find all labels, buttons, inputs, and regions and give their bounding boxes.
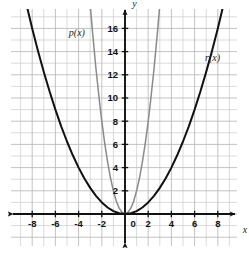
y-axis-tick-label: 12 — [107, 69, 118, 80]
x-axis-tick-label: 4 — [169, 218, 175, 229]
x-axis-tick-label: -8 — [28, 218, 36, 229]
y-axis-tick-label: 14 — [107, 46, 118, 57]
x-axis-tick-label: -6 — [51, 218, 59, 229]
x-axis-tick-label: -2 — [98, 218, 106, 229]
coordinate-graph: -8-6-4-202468246810121416p(x)r(x)yx — [0, 0, 249, 255]
x-axis-tick-label: -4 — [74, 218, 83, 229]
x-axis-tick-label: 6 — [192, 218, 197, 229]
x-axis-label: x — [242, 224, 248, 235]
y-axis-tick-label: 6 — [113, 139, 118, 150]
y-axis-tick-label: 16 — [107, 23, 118, 34]
y-axis-tick-label: 4 — [113, 162, 119, 173]
curve-label-r: r(x) — [205, 52, 221, 64]
y-axis-tick-label: 8 — [113, 116, 118, 127]
graph-svg: -8-6-4-202468246810121416p(x)r(x)yx — [0, 0, 249, 255]
y-axis-tick-label: 2 — [113, 185, 118, 196]
y-axis-label: y — [131, 0, 137, 9]
x-axis-tick-label: 8 — [215, 218, 220, 229]
x-axis-tick-label: 0 — [131, 218, 136, 229]
y-axis-tick-label: 10 — [107, 92, 118, 103]
x-axis-tick-label: 2 — [146, 218, 151, 229]
curve-label-p: p(x) — [68, 27, 86, 39]
